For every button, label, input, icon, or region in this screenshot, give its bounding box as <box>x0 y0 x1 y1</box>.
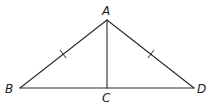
label-b: B <box>5 82 13 96</box>
triangle-diagram: A B C D <box>0 0 210 106</box>
tick-mark-ab <box>60 50 66 58</box>
tick-mark-ad <box>148 50 154 58</box>
label-a: A <box>101 4 110 18</box>
label-d: D <box>197 82 206 96</box>
label-c: C <box>102 91 111 105</box>
